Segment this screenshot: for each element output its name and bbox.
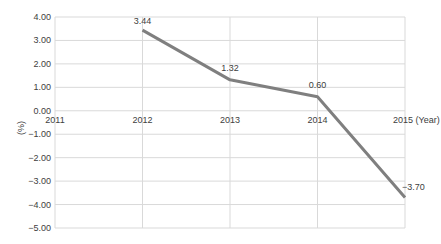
x-tick-label: 2012 bbox=[132, 115, 152, 125]
data-label: 0.60 bbox=[309, 80, 327, 90]
y-tick-label: −4.00 bbox=[28, 200, 51, 210]
y-tick-label: −5.00 bbox=[28, 223, 51, 233]
data-label: 1.32 bbox=[221, 63, 239, 73]
y-tick-label: 1.00 bbox=[33, 82, 51, 92]
series-line bbox=[143, 30, 406, 197]
y-tick-label: 4.00 bbox=[33, 12, 51, 22]
data-label: −3.70 bbox=[402, 182, 425, 192]
line-chart: 4.003.002.001.000.00−1.00−2.00−3.00−4.00… bbox=[0, 0, 441, 244]
data-labels: 3.441.320.60−3.70 bbox=[134, 16, 425, 191]
y-tick-label: 2.00 bbox=[33, 59, 51, 69]
y-tick-label: −1.00 bbox=[28, 129, 51, 139]
y-tick-label: −3.00 bbox=[28, 176, 51, 186]
y-axis-label: (%) bbox=[16, 121, 26, 135]
y-tick-label: −2.00 bbox=[28, 153, 51, 163]
x-axis-tick-labels: 20112012201320142015 (Year) bbox=[45, 115, 439, 125]
x-tick-label: 2014 bbox=[307, 115, 327, 125]
y-tick-label: 3.00 bbox=[33, 35, 51, 45]
data-label: 3.44 bbox=[134, 16, 152, 26]
x-tick-label: 2011 bbox=[45, 115, 64, 125]
x-tick-label: 2013 bbox=[220, 115, 240, 125]
x-tick-label: 2015 (Year) bbox=[393, 115, 440, 125]
